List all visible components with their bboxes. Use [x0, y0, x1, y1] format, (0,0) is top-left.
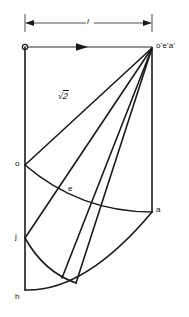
- dimension-arrowhead-right: [143, 20, 152, 26]
- diagram-canvas: o'e'a' o e a j h l √2: [0, 0, 189, 317]
- arc-o-e-a: [25, 165, 152, 212]
- label-point-h: h: [15, 293, 19, 301]
- label-point-e: e: [68, 185, 72, 193]
- label-point-j: j: [15, 233, 17, 241]
- dimension-arrowhead-left: [25, 20, 34, 26]
- label-dimension-l: l: [87, 18, 89, 26]
- radicand: 2: [62, 90, 69, 101]
- horizontal-axis-group: [22, 43, 152, 51]
- label-radius-sqrt2: √2: [58, 92, 68, 101]
- arc-bottom-h: [25, 212, 152, 290]
- label-point-o: o: [15, 160, 19, 168]
- radial-lines-group: [25, 48, 152, 283]
- arcs-group: [25, 165, 152, 290]
- direction-arrow-icon: [76, 43, 88, 51]
- label-apex-oea: o'e'a': [156, 42, 175, 50]
- label-point-a: a: [156, 206, 160, 214]
